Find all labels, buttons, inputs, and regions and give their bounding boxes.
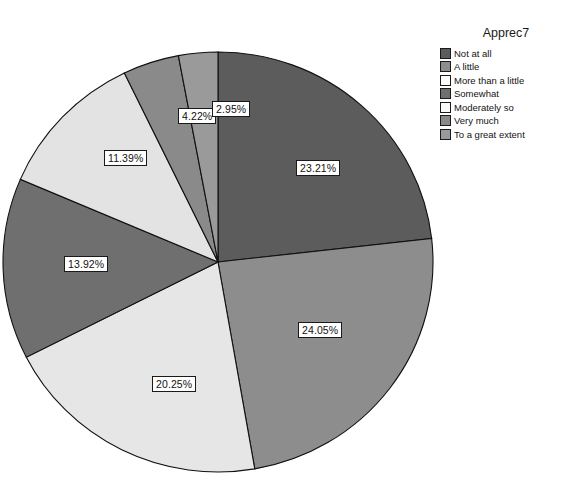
legend-item[interactable]: Not at all xyxy=(440,47,568,59)
legend-color-swatch-icon xyxy=(440,48,451,59)
pie-slice-value-label: 4.22% xyxy=(178,108,216,124)
legend-title: Apprec7 xyxy=(440,26,568,40)
chart-legend: Apprec7 Not at allA littleMore than a li… xyxy=(440,26,568,142)
legend-item-label: Moderately so xyxy=(454,102,514,113)
legend-item[interactable]: More than a little xyxy=(440,74,568,86)
legend-item[interactable]: Somewhat xyxy=(440,88,568,100)
legend-items-list: Not at allA littleMore than a littleSome… xyxy=(440,47,568,140)
legend-item-label: Not at all xyxy=(454,48,492,59)
legend-item[interactable]: To a great extent xyxy=(440,128,568,140)
pie-slice-value-label: 20.25% xyxy=(152,376,196,392)
pie-slice-value-label: 2.95% xyxy=(212,101,250,117)
pie-slice-value-label: 13.92% xyxy=(64,256,108,272)
legend-item-label: Somewhat xyxy=(454,88,499,99)
legend-color-swatch-icon xyxy=(440,115,451,126)
legend-item-label: Very much xyxy=(454,115,499,126)
legend-color-swatch-icon xyxy=(440,61,451,72)
pie-slice-value-label: 11.39% xyxy=(104,150,147,166)
legend-item-label: More than a little xyxy=(454,75,524,86)
legend-color-swatch-icon xyxy=(440,129,451,140)
pie-slice-value-label: 24.05% xyxy=(298,322,342,338)
legend-item[interactable]: Moderately so xyxy=(440,101,568,113)
pie-chart-figure: 23.21%24.05%20.25%13.92%11.39%4.22%2.95%… xyxy=(0,0,570,498)
legend-color-swatch-icon xyxy=(440,88,451,99)
pie-slice[interactable] xyxy=(218,238,433,468)
pie-slice-value-label: 23.21% xyxy=(296,160,340,176)
legend-item[interactable]: Very much xyxy=(440,115,568,127)
legend-item-label: A little xyxy=(454,61,479,72)
pie-slice[interactable] xyxy=(218,52,432,262)
legend-color-swatch-icon xyxy=(440,75,451,86)
legend-item[interactable]: A little xyxy=(440,61,568,73)
legend-item-label: To a great extent xyxy=(454,129,525,140)
legend-color-swatch-icon xyxy=(440,102,451,113)
